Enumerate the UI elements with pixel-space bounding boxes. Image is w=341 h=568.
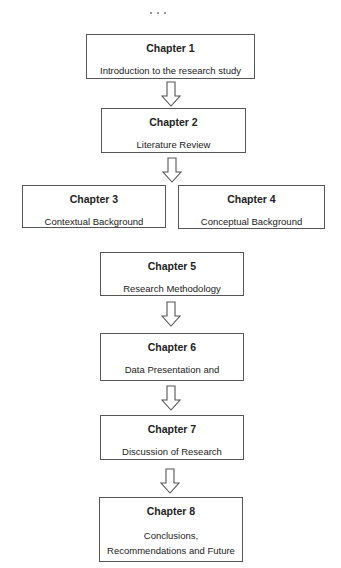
down-arrow-icon	[161, 81, 181, 107]
chapter-1-desc: Introduction to the research study	[87, 64, 254, 77]
chapter-2-title: Chapter 2	[102, 116, 245, 128]
down-arrow-icon	[162, 157, 182, 183]
chapter-8-desc-line-2: Recommendations and Future	[100, 544, 242, 557]
chapter-3-box: Chapter 3 Contextual Background	[22, 185, 166, 228]
chapter-3-title: Chapter 3	[23, 193, 165, 205]
down-arrow-icon	[160, 468, 180, 494]
chapter-2-desc: Literature Review	[102, 138, 245, 151]
chapter-5-title: Chapter 5	[101, 260, 243, 272]
chapter-4-desc: Conceptual Background	[179, 215, 324, 228]
chapter-2-box: Chapter 2 Literature Review	[101, 108, 246, 153]
chapter-8-desc-line-1: Conclusions,	[100, 529, 242, 542]
chapter-6-box: Chapter 6 Data Presentation and	[100, 333, 244, 381]
chapter-7-desc: Discussion of Research	[101, 445, 243, 458]
chapter-4-box: Chapter 4 Conceptual Background	[178, 185, 325, 229]
chapter-6-desc: Data Presentation and	[101, 363, 243, 376]
chapter-8-box: Chapter 8 Conclusions, Recommendations a…	[99, 497, 243, 562]
down-arrow-icon	[161, 301, 181, 327]
chapter-1-title: Chapter 1	[87, 42, 254, 54]
chapter-7-title: Chapter 7	[101, 423, 243, 435]
chapter-1-box: Chapter 1 Introduction to the research s…	[86, 34, 255, 79]
chapter-6-title: Chapter 6	[101, 341, 243, 353]
chapter-3-desc: Contextual Background	[23, 215, 165, 228]
chapter-4-title: Chapter 4	[179, 193, 324, 205]
chapter-8-title: Chapter 8	[100, 505, 242, 517]
chapter-5-desc: Research Methodology	[101, 282, 243, 295]
down-arrow-icon	[161, 385, 181, 411]
cropped-text-fragment	[150, 0, 180, 3]
chapter-5-box: Chapter 5 Research Methodology	[100, 252, 244, 296]
chapter-7-box: Chapter 7 Discussion of Research	[100, 415, 244, 460]
